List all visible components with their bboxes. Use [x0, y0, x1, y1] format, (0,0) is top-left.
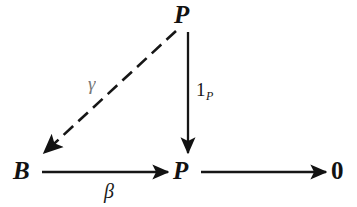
- identity-base: 1: [196, 79, 206, 100]
- edge-label-identity: 1P: [196, 80, 213, 102]
- commutative-diagram: P B P 0 γ 1P β: [0, 0, 357, 207]
- identity-subscript: P: [206, 89, 213, 103]
- node-zero: 0: [331, 158, 344, 183]
- edge-label-gamma: γ: [88, 74, 96, 93]
- node-p-bottom: P: [173, 158, 188, 183]
- node-p-top: P: [174, 2, 189, 27]
- edge-gamma-arrow: [44, 31, 176, 153]
- edge-label-beta: β: [104, 181, 114, 201]
- node-b: B: [13, 158, 30, 183]
